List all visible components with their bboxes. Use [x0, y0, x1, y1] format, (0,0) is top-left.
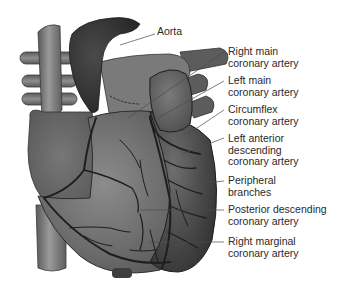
- left-atrium: [150, 70, 193, 132]
- label-left-anterior-descending-coronary-artery: Left anterior descending coronary artery: [228, 133, 299, 168]
- label-right-marginal-coronary-artery: Right marginal coronary artery: [228, 236, 299, 259]
- label-peripheral-branches: Peripheral branches: [228, 175, 276, 198]
- superior-vena-cava: [38, 25, 62, 118]
- leader-aorta: [120, 34, 155, 45]
- label-circumflex-coronary-artery: Circumflex coronary artery: [228, 104, 299, 127]
- apex-vessel-stub: [112, 268, 132, 278]
- label-posterior-descending-coronary-artery: Posterior descending coronary artery: [228, 204, 327, 227]
- label-right-main-coronary-artery: Right main coronary artery: [228, 46, 299, 69]
- label-left-main-coronary-artery: Left main coronary artery: [228, 75, 299, 98]
- label-aorta: Aorta: [157, 26, 182, 38]
